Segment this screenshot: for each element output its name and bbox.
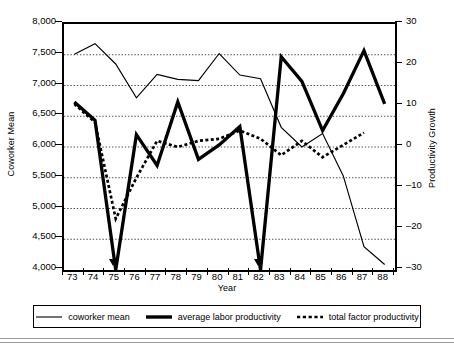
y-tick-mark-left (55, 267, 62, 268)
legend-label-coworker-mean: coworker mean (68, 312, 130, 322)
footer-rule-top (0, 338, 454, 339)
y-tick-mark-right (395, 226, 402, 227)
plot-inner (64, 24, 395, 270)
marker-arrow-1975 (109, 259, 117, 266)
y-tick-mark-left (55, 52, 62, 53)
legend-swatch-thick-line (145, 312, 173, 322)
y-tick-label-right: –30 (406, 261, 446, 272)
legend-item-total-factor-productivity: total factor productivity (296, 312, 419, 322)
legend-item-average-labor-productivity: average labor productivity (145, 312, 281, 322)
y-tick-mark-right (395, 185, 402, 186)
x-axis-title: Year (0, 283, 454, 293)
chart-figure: Coworker Mean Productivity Growth Year 4… (0, 0, 454, 348)
legend-swatch-thin-line (35, 312, 63, 322)
y-tick-mark-right (395, 267, 402, 268)
y-tick-label-right: –10 (406, 179, 446, 190)
y-tick-mark-left (55, 113, 62, 114)
y-tick-label-left: 6,000 (10, 138, 56, 149)
series-line-total-factor-productivity (74, 104, 364, 219)
y-tick-label-right: 0 (406, 138, 446, 149)
y-tick-label-left: 7,000 (10, 77, 56, 88)
x-tick-label: 88 (371, 271, 395, 282)
plot-area (62, 22, 397, 272)
y-tick-mark-right (395, 103, 402, 104)
y-tick-mark-left (55, 21, 62, 22)
legend-label-total-factor-productivity: total factor productivity (329, 312, 419, 322)
legend-swatch-dotted-line (296, 312, 324, 322)
footer-rule-bottom (0, 342, 454, 343)
legend-item-coworker-mean: coworker mean (35, 312, 130, 322)
y-tick-label-left: 6,500 (10, 107, 56, 118)
y-tick-mark-right (395, 21, 402, 22)
y-tick-label-left: 5,500 (10, 169, 56, 180)
x-tick-mark (393, 268, 394, 275)
y-tick-label-left: 4,000 (10, 261, 56, 272)
chart-legend: coworker mean average labor productivity… (33, 305, 421, 328)
y-tick-mark-left (55, 144, 62, 145)
y-tick-label-left: 5,000 (10, 200, 56, 211)
y-tick-mark-left (55, 206, 62, 207)
y-tick-label-right: 10 (406, 97, 446, 108)
y-tick-mark-right (395, 144, 402, 145)
series-line-average-labor-productivity (74, 51, 384, 270)
y-tick-mark-right (395, 62, 402, 63)
y-tick-label-right: 20 (406, 56, 446, 67)
y-tick-mark-left (55, 175, 62, 176)
y-tick-label-left: 7,500 (10, 46, 56, 57)
y-tick-mark-left (55, 83, 62, 84)
series-layer (64, 24, 395, 270)
marker-arrow-1982 (254, 259, 262, 266)
y-tick-label-right: –20 (406, 220, 446, 231)
legend-label-average-labor-productivity: average labor productivity (178, 312, 281, 322)
y-tick-label-left: 8,000 (10, 15, 56, 26)
y-tick-mark-left (55, 236, 62, 237)
y-tick-label-left: 4,500 (10, 230, 56, 241)
y-tick-label-right: 30 (406, 15, 446, 26)
